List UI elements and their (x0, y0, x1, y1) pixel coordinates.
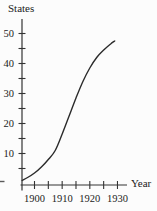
states-curve (22, 41, 115, 181)
y-tick-label: 50 (0, 28, 14, 39)
y-tick-label: 40 (0, 58, 14, 69)
y-axis-title: States (8, 2, 34, 14)
chart-figure: States Year 19001910192019301020304050 (0, 0, 157, 211)
axis-ticks (19, 34, 118, 190)
x-axis-title: Year (131, 177, 151, 189)
y-tick-label: 20 (0, 118, 14, 129)
x-tick-label: 1920 (76, 193, 104, 205)
x-tick-label: 1910 (48, 193, 76, 205)
x-tick-label: 1900 (21, 193, 49, 205)
y-tick-label: 10 (0, 148, 14, 159)
y-tick-label: 30 (0, 88, 14, 99)
x-tick-label: 1930 (103, 193, 131, 205)
